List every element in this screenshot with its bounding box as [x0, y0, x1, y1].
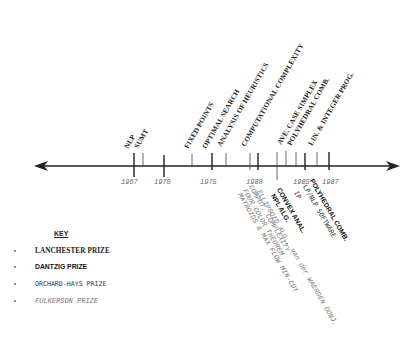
key-label: FULKERSON PRIZE: [35, 297, 98, 305]
year-label: 1970: [154, 178, 171, 186]
year-label: 1975: [200, 178, 217, 186]
key-title: KEY: [54, 230, 68, 237]
bullet-icon: [14, 300, 16, 302]
year-label: 1987: [322, 178, 339, 186]
bullet-icon: [14, 266, 16, 268]
key-label: LANCHESTER PRIZE: [35, 247, 110, 255]
key-label: DANTZIG PRIZE: [35, 263, 87, 270]
key-label: ORCHARD-HAYS PRIZE: [35, 280, 106, 288]
bullet-icon: [14, 283, 16, 285]
bullet-icon: [14, 250, 16, 252]
year-label: 1967: [121, 178, 138, 186]
